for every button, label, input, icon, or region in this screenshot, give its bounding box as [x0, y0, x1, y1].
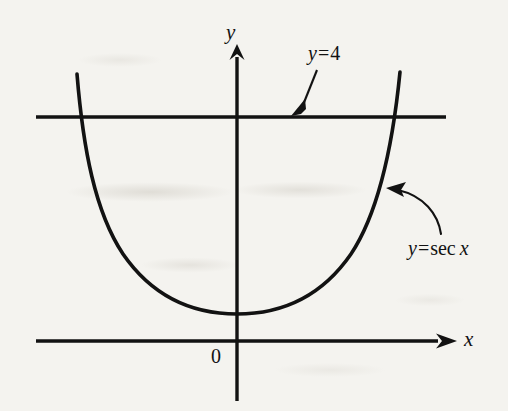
annotation-arrow-y4-head	[291, 99, 306, 116]
annotation-arrow-secx-head	[386, 182, 406, 197]
y-axis	[230, 44, 245, 401]
label-y4-rhs: 4	[330, 42, 340, 64]
label-line-y-equals-4: y=4	[308, 43, 340, 63]
origin-label: 0	[211, 346, 221, 366]
label-y4-lhs: y	[308, 42, 317, 64]
x-axis-label: x	[464, 329, 473, 350]
annotation-arrow-secx	[386, 182, 441, 234]
y-axis-label: y	[226, 22, 235, 43]
label-secx-equals: =	[417, 237, 430, 259]
plot-graphic	[0, 0, 508, 411]
annotation-arrow-secx-shaft	[398, 190, 441, 234]
label-secx-argument: x	[456, 237, 469, 259]
label-secx-function: sec	[430, 237, 456, 259]
label-curve-y-equals-sec-x: y=secx	[408, 238, 469, 258]
x-axis-arrowhead	[436, 334, 457, 349]
label-secx-lhs: y	[408, 237, 417, 259]
figure-canvas: y x 0 y=4 y=secx	[0, 0, 508, 411]
annotation-arrow-y4	[291, 70, 317, 116]
label-y4-equals: =	[317, 42, 330, 64]
x-axis	[36, 334, 457, 349]
